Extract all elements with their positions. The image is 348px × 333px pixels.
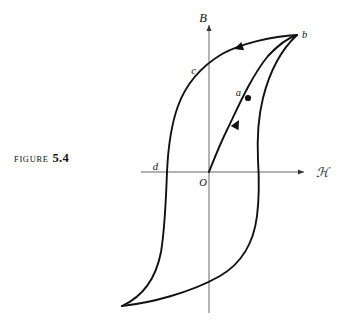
origin-label: O — [199, 177, 207, 188]
hysteresis-loop-plot: B ℋ O a b c d — [0, 0, 348, 333]
point-label-d: d — [153, 161, 159, 172]
initial-magnetization-curve — [209, 35, 297, 172]
point-label-a: a — [236, 87, 241, 98]
point-label-c: c — [191, 65, 196, 76]
vertical-axis-label: B — [199, 11, 207, 25]
figure-container: Figure5.4 B ℋ O a b c d — [0, 0, 348, 333]
point-marker-a — [245, 95, 251, 101]
horizontal-axis-label: ℋ — [316, 165, 331, 180]
point-label-b: b — [302, 29, 307, 40]
